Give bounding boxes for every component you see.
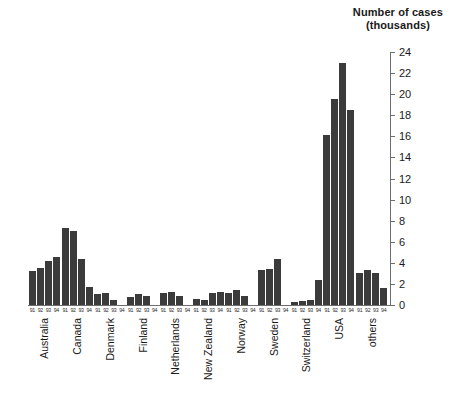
- country-label: Finland: [137, 318, 148, 352]
- bar: [143, 296, 150, 305]
- year-label-group: 91929394: [28, 307, 61, 317]
- country-label: Switzerland: [301, 318, 312, 372]
- bar: [45, 261, 52, 305]
- year-label-group: 91929394: [159, 307, 192, 317]
- year-tick-label: 94: [217, 307, 224, 317]
- bar: [315, 280, 322, 305]
- year-tick-label: 92: [266, 307, 273, 317]
- year-tick-label: 91: [225, 307, 232, 317]
- bar-group: [159, 52, 192, 305]
- year-tick-label: 93: [45, 307, 52, 317]
- bar: [339, 63, 346, 305]
- y-tick-label: 12: [399, 174, 411, 185]
- country-label: others: [366, 318, 377, 347]
- year-tick-label: 91: [291, 307, 298, 317]
- year-tick-label: 94: [249, 307, 256, 317]
- bar: [364, 270, 371, 305]
- year-tick-label: 92: [233, 307, 240, 317]
- bar-group: [126, 52, 159, 305]
- bar: [372, 273, 379, 305]
- y-tick-label: 8: [399, 216, 405, 227]
- y-tick-label: 18: [399, 110, 411, 121]
- bar: [225, 293, 232, 305]
- y-tick-mark: [390, 52, 395, 53]
- x-axis-year-labels: 9192939491929394919293949192939491929394…: [28, 307, 388, 317]
- y-tick-mark: [390, 73, 395, 74]
- chart-title-line-1: Number of cases: [353, 6, 443, 19]
- year-tick-label: 93: [339, 307, 346, 317]
- year-tick-label: 92: [201, 307, 208, 317]
- year-label-group: 91929394: [257, 307, 290, 317]
- bar: [53, 257, 60, 305]
- bar: [127, 297, 134, 305]
- year-tick-label: 91: [258, 307, 265, 317]
- year-tick-label: 92: [331, 307, 338, 317]
- y-tick-mark: [390, 136, 395, 137]
- y-tick-label: 2: [399, 279, 405, 290]
- country-label: Norway: [235, 318, 246, 354]
- year-tick-label: 92: [299, 307, 306, 317]
- country-label-slot: Canada: [61, 318, 94, 396]
- year-tick-label: 91: [193, 307, 200, 317]
- year-label-group: 91929394: [61, 307, 94, 317]
- year-tick-label: 91: [29, 307, 36, 317]
- year-tick-label: 94: [86, 307, 93, 317]
- y-tick-label: 24: [399, 47, 411, 58]
- country-label-slot: Netherlands: [159, 318, 192, 396]
- year-tick-label: 92: [70, 307, 77, 317]
- y-tick-mark: [390, 115, 395, 116]
- bar: [62, 228, 69, 305]
- year-label-group: 91929394: [224, 307, 257, 317]
- year-tick-label: 91: [127, 307, 134, 317]
- chart-title: Number of cases (thousands): [353, 6, 443, 32]
- year-tick-label: 91: [62, 307, 69, 317]
- year-tick-label: 93: [143, 307, 150, 317]
- year-tick-label: 93: [307, 307, 314, 317]
- year-label-group: 91929394: [355, 307, 388, 317]
- bar: [323, 135, 330, 305]
- bar-group: [257, 52, 290, 305]
- bar: [331, 99, 338, 305]
- x-axis-line: [28, 305, 390, 306]
- y-tick-label: 14: [399, 152, 411, 163]
- y-tick-mark: [390, 94, 395, 95]
- year-tick-label: 91: [160, 307, 167, 317]
- country-label-slot: New Zealand: [192, 318, 225, 396]
- bar-group: [192, 52, 225, 305]
- bar: [94, 294, 101, 305]
- y-tick-mark: [390, 200, 395, 201]
- bar-group: [224, 52, 257, 305]
- country-label-slot: Sweden: [257, 318, 290, 396]
- year-tick-label: 92: [37, 307, 44, 317]
- year-tick-label: 93: [110, 307, 117, 317]
- bar-group: [28, 52, 61, 305]
- year-tick-label: 93: [78, 307, 85, 317]
- country-label: New Zealand: [203, 318, 214, 380]
- country-label-slot: Finland: [126, 318, 159, 396]
- bar: [217, 292, 224, 305]
- year-tick-label: 92: [135, 307, 142, 317]
- y-tick-label: 0: [399, 300, 405, 311]
- bar-chart: Number of cases (thousands) 024681012141…: [0, 0, 455, 398]
- bar: [135, 294, 142, 305]
- country-label-slot: Australia: [28, 318, 61, 396]
- year-tick-label: 94: [53, 307, 60, 317]
- y-tick-mark: [390, 221, 395, 222]
- year-tick-label: 94: [380, 307, 387, 317]
- bar-group: [323, 52, 356, 305]
- y-tick-mark: [390, 284, 395, 285]
- y-tick-mark: [390, 263, 395, 264]
- year-tick-label: 94: [118, 307, 125, 317]
- year-tick-label: 93: [274, 307, 281, 317]
- y-tick-label: 4: [399, 258, 405, 269]
- y-tick-label: 16: [399, 131, 411, 142]
- bar-group: [93, 52, 126, 305]
- bar-group: [355, 52, 388, 305]
- plot-area: [28, 52, 388, 305]
- y-tick-label: 10: [399, 195, 411, 206]
- y-tick-label: 20: [399, 89, 411, 100]
- bar: [160, 293, 167, 305]
- bar: [258, 270, 265, 305]
- country-label-slot: others: [355, 318, 388, 396]
- x-axis-country-labels: AustraliaCanadaDenmarkFinlandNetherlands…: [28, 318, 388, 396]
